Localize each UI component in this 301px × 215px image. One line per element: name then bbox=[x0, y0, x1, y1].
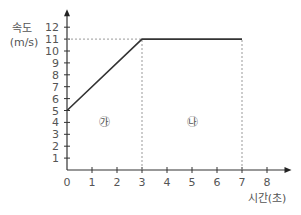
x-tick-label: 0 bbox=[64, 176, 71, 189]
x-tick-label: 7 bbox=[239, 176, 246, 189]
x-axis-title: 시간(초) bbox=[248, 192, 287, 205]
velocity-line bbox=[67, 39, 242, 110]
region-label: ㉯ bbox=[187, 116, 198, 129]
y-tick-label: 10 bbox=[45, 45, 59, 58]
y-axis-arrow-icon bbox=[64, 9, 70, 16]
labels: 012345678123456789101112㉮㉯속도(m/s)시간(초) bbox=[10, 21, 287, 205]
axes bbox=[64, 9, 292, 173]
guide-lines bbox=[67, 39, 242, 170]
x-tick-label: 5 bbox=[189, 176, 196, 189]
x-tick-label: 4 bbox=[164, 176, 171, 189]
y-axis-unit: (m/s) bbox=[10, 36, 39, 49]
y-tick-label: 8 bbox=[52, 69, 59, 82]
y-tick-label: 2 bbox=[52, 140, 59, 153]
y-tick-label: 5 bbox=[52, 105, 59, 118]
y-tick-label: 12 bbox=[45, 21, 59, 34]
y-tick-label: 1 bbox=[52, 152, 59, 165]
velocity-time-chart: 012345678123456789101112㉮㉯속도(m/s)시간(초) bbox=[0, 0, 301, 215]
y-axis-title: 속도 bbox=[12, 22, 32, 35]
x-tick-label: 3 bbox=[139, 176, 146, 189]
y-tick-label: 4 bbox=[52, 116, 59, 129]
x-tick-label: 1 bbox=[89, 176, 96, 189]
x-tick-label: 2 bbox=[114, 176, 121, 189]
y-tick-label: 7 bbox=[52, 81, 59, 94]
region-label: ㉮ bbox=[99, 116, 110, 129]
x-axis-arrow-icon bbox=[285, 167, 292, 173]
y-tick-label: 9 bbox=[52, 57, 59, 70]
y-tick-label: 6 bbox=[52, 93, 59, 106]
x-tick-label: 6 bbox=[214, 176, 221, 189]
x-tick-label: 8 bbox=[264, 176, 271, 189]
y-tick-label: 11 bbox=[45, 33, 59, 46]
y-tick-label: 3 bbox=[52, 128, 59, 141]
data-line bbox=[67, 39, 242, 110]
